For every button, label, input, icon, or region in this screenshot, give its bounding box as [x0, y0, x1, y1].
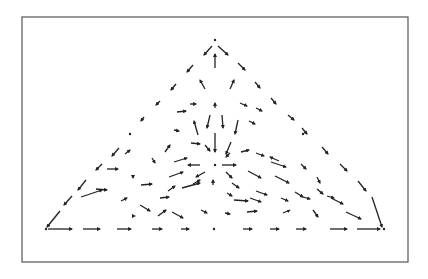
vector-arrow: [165, 145, 170, 152]
vector-arrow: [331, 198, 343, 204]
vector-arrow: [201, 210, 207, 213]
vector-arrow: [200, 80, 205, 89]
vector-arrow: [172, 212, 183, 218]
vector-arrow: [238, 63, 245, 70]
vector-arrow: [96, 164, 102, 170]
vector-arrow: [271, 98, 276, 104]
vector-arrow: [283, 210, 290, 213]
vector-arrow: [204, 46, 212, 55]
vector-arrow: [358, 181, 366, 191]
vector-arrow: [158, 210, 166, 216]
vector-arrow: [78, 180, 86, 190]
vector-arrow: [168, 186, 175, 191]
vector-arrow: [317, 177, 320, 183]
vector-arrow: [249, 121, 255, 124]
vector-arrow: [140, 205, 150, 211]
node-dot: [213, 228, 215, 230]
vector-arrow: [248, 171, 261, 178]
vector-arrow: [317, 189, 323, 194]
vector-arrow: [171, 84, 176, 90]
vector-arrow: [327, 196, 334, 198]
vector-arrow: [340, 164, 347, 171]
node-dot: [129, 133, 131, 135]
vector-arrow: [174, 158, 187, 162]
vector-arrow: [125, 150, 130, 154]
vector-arrow: [141, 117, 144, 121]
vector-arrow: [234, 200, 248, 201]
vector-arrow: [141, 184, 152, 185]
vector-arrow: [271, 162, 286, 167]
vector-arrow: [226, 172, 232, 178]
vector-arrow: [240, 103, 247, 106]
node-dot: [214, 164, 216, 166]
vector-arrow: [256, 153, 264, 156]
vector-arrow: [64, 196, 72, 205]
vector-arrow: [250, 198, 261, 202]
vector-arrow: [160, 197, 169, 198]
vector-arrow: [230, 80, 234, 89]
vector-arrow: [270, 157, 279, 161]
vector-field-diagram: [0, 0, 428, 279]
vector-arrow: [156, 101, 160, 105]
vector-arrow: [205, 145, 210, 151]
vector-arrow: [295, 192, 303, 197]
vector-arrow: [191, 143, 200, 144]
vector-arrow: [182, 183, 200, 188]
vector-arrow: [222, 115, 223, 128]
vector-arrow: [121, 198, 127, 201]
vector-arrow: [177, 111, 186, 112]
vector-arrow: [275, 176, 289, 183]
vector-arrow: [235, 120, 238, 134]
vector-arrow: [207, 115, 210, 128]
vector-arrow: [322, 147, 328, 154]
node-dot: [302, 133, 304, 135]
vector-arrow: [194, 121, 198, 135]
vector-arrows: [47, 46, 382, 229]
vector-arrow: [226, 142, 231, 154]
vector-arrow: [112, 148, 119, 156]
vector-arrow: [227, 193, 232, 196]
vector-arrow: [232, 183, 239, 188]
vector-arrow: [303, 197, 310, 199]
node-dot: [45, 228, 47, 230]
vector-arrow: [225, 213, 230, 214]
vector-arrow: [196, 172, 205, 177]
vector-arrow: [218, 46, 228, 55]
vector-arrow: [47, 211, 60, 227]
vector-arrow: [187, 65, 193, 72]
vector-arrow: [256, 108, 262, 111]
vector-arrow: [256, 191, 267, 195]
vector-arrow: [301, 164, 306, 169]
vector-arrow: [169, 172, 183, 177]
vector-arrow: [281, 198, 288, 201]
vector-arrow: [241, 150, 249, 152]
node-dot: [214, 39, 216, 41]
vector-arrow: [81, 190, 102, 197]
vector-arrow: [152, 158, 155, 163]
vector-arrow: [174, 130, 179, 131]
vector-arrow: [247, 211, 257, 212]
vector-arrow: [346, 212, 361, 219]
vector-arrow: [313, 210, 318, 217]
vector-arrow: [288, 115, 294, 120]
node-dot: [383, 228, 385, 230]
vector-arrow: [255, 82, 260, 88]
vector-arrow: [372, 197, 382, 227]
